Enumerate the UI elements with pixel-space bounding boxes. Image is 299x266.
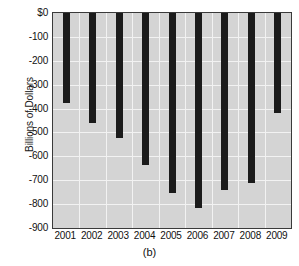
caption-artifact (0, 261, 299, 266)
gridline-vertical (132, 13, 133, 228)
x-tick-label: 2005 (160, 230, 181, 241)
x-tick-label: 2003 (107, 230, 128, 241)
y-axis-tick-labels: $0-100-200-300-400-500-600-700-800-900 (0, 0, 51, 240)
y-tick-label: -500 (29, 126, 48, 137)
gridline-vertical (79, 13, 80, 228)
gridline-vertical (212, 13, 213, 228)
y-tick-label: -100 (29, 30, 48, 41)
gridline-horizontal (53, 204, 291, 205)
x-tick-label: 2008 (240, 230, 261, 241)
y-tick-label: -700 (29, 174, 48, 185)
gridline-vertical (159, 13, 160, 228)
x-tick-label: 2002 (81, 230, 102, 241)
figure-caption: (b) (0, 246, 299, 258)
x-axis-tick-labels: 200120022003200420052006200720082009 (52, 230, 292, 246)
x-tick-label: 2006 (187, 230, 208, 241)
plot-area (52, 12, 292, 229)
bar-2007 (221, 13, 228, 190)
y-tick-label: $0 (37, 7, 48, 18)
chart-figure: Billions of Dollars $0-100-200-300-400-5… (0, 0, 299, 266)
gridline-vertical (238, 13, 239, 228)
bar-2004 (142, 13, 149, 165)
gridline-vertical (265, 13, 266, 228)
x-tick-label: 2009 (266, 230, 287, 241)
y-tick-label: -200 (29, 54, 48, 65)
bar-2006 (195, 13, 202, 208)
bar-2003 (116, 13, 123, 138)
bar-2008 (248, 13, 255, 183)
gridline-horizontal (53, 228, 291, 229)
bar-2002 (89, 13, 96, 123)
y-tick-label: -800 (29, 198, 48, 209)
bar-2009 (274, 13, 281, 113)
x-tick-label: 2007 (213, 230, 234, 241)
y-tick-label: -300 (29, 78, 48, 89)
y-tick-label: -400 (29, 102, 48, 113)
gridline-vertical (185, 13, 186, 228)
x-tick-label: 2001 (54, 230, 75, 241)
x-tick-label: 2004 (134, 230, 155, 241)
gridline-vertical (106, 13, 107, 228)
y-tick-label: -600 (29, 150, 48, 161)
y-tick-label: -900 (29, 222, 48, 233)
bar-2001 (63, 13, 70, 103)
bar-2005 (169, 13, 176, 193)
